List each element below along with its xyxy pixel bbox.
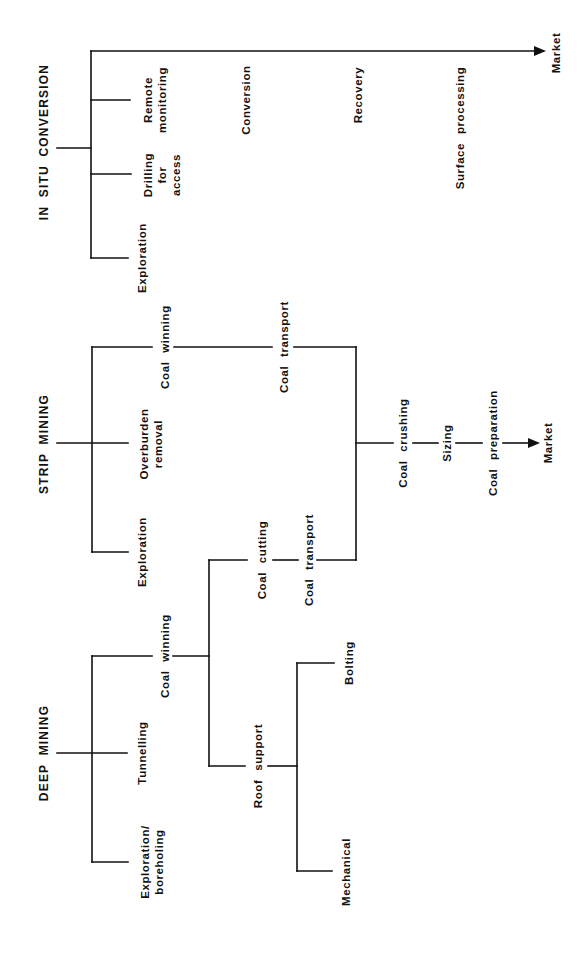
arrowhead-icon-top	[534, 46, 546, 56]
arrowhead-icon-bottom	[528, 438, 540, 448]
